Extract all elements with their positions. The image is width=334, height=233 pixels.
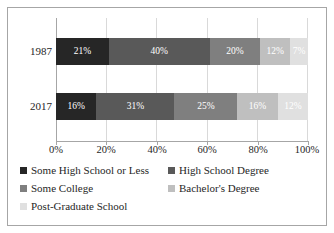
bar-segment-2017-post-graduate-school[interactable]: 12%	[278, 93, 308, 120]
gridline-100	[307, 18, 308, 141]
legend-item-some-college[interactable]: Some College	[20, 183, 168, 194]
bar-row-2017: 16% 31% 25% 16% 12%	[56, 93, 308, 120]
legend-item-bachelors-degree[interactable]: Bachelor's Degree	[168, 183, 318, 194]
bar-segment-1987-some-high-school-or-less[interactable]: 21%	[56, 38, 109, 65]
x-axis-ticklabel-100: 100%	[285, 144, 329, 155]
bar-segment-1987-some-college[interactable]: 20%	[210, 38, 260, 65]
legend-swatch-icon-post-graduate-school	[20, 203, 27, 210]
y-axis-line	[56, 18, 57, 141]
x-axis-line	[56, 141, 309, 142]
y-axis-label-2017: 2017	[16, 100, 52, 112]
gridline-20	[106, 18, 107, 141]
bar-row-1987: 21% 40% 20% 12% 7%	[56, 38, 308, 65]
legend-label-high-school-degree: High School Degree	[179, 165, 269, 176]
y-axis-label-1987: 1987	[16, 45, 52, 57]
legend-label-some-high-school-or-less: Some High School or Less	[31, 165, 149, 176]
x-axis-ticklabel-0: 0%	[34, 144, 78, 155]
chart-legend: Some High School or Less High School Deg…	[20, 161, 320, 215]
gridline-60	[207, 18, 208, 141]
gridline-40	[156, 18, 157, 141]
x-axis-ticklabel-40: 40%	[135, 144, 179, 155]
legend-label-bachelors-degree: Bachelor's Degree	[179, 183, 259, 194]
x-axis-ticklabel-80: 80%	[236, 144, 280, 155]
bar-segment-2017-some-college[interactable]: 25%	[174, 93, 237, 120]
bar-segment-1987-high-school-degree[interactable]: 40%	[109, 38, 210, 65]
legend-swatch-icon-some-high-school-or-less	[20, 167, 27, 174]
bar-segment-1987-post-graduate-school[interactable]: 7%	[290, 38, 308, 65]
legend-item-some-high-school-or-less[interactable]: Some High School or Less	[20, 165, 168, 176]
legend-row-2: Some College Bachelor's Degree	[20, 179, 320, 197]
legend-swatch-icon-some-college	[20, 185, 27, 192]
plot-area: 21% 40% 20% 12% 7% 16% 31% 25% 16% 12%	[56, 18, 308, 141]
bar-segment-2017-bachelors-degree[interactable]: 16%	[237, 93, 277, 120]
bar-segment-1987-bachelors-degree[interactable]: 12%	[260, 38, 290, 65]
gridline-80	[257, 18, 258, 141]
x-axis-ticklabel-60: 60%	[185, 144, 229, 155]
legend-row-3: Post-Graduate School	[20, 197, 320, 215]
legend-row-1: Some High School or Less High School Deg…	[20, 161, 320, 179]
legend-item-high-school-degree[interactable]: High School Degree	[168, 165, 318, 176]
legend-label-post-graduate-school: Post-Graduate School	[31, 201, 127, 212]
legend-item-post-graduate-school[interactable]: Post-Graduate School	[20, 201, 168, 212]
legend-label-some-college: Some College	[31, 183, 93, 194]
bar-segment-2017-high-school-degree[interactable]: 31%	[96, 93, 174, 120]
bar-segment-2017-some-high-school-or-less[interactable]: 16%	[56, 93, 96, 120]
legend-swatch-icon-high-school-degree	[168, 167, 175, 174]
stacked-bar-chart: 21% 40% 20% 12% 7% 16% 31% 25% 16% 12% 1…	[0, 0, 334, 233]
legend-swatch-icon-bachelors-degree	[168, 185, 175, 192]
x-axis-ticklabel-20: 20%	[84, 144, 128, 155]
